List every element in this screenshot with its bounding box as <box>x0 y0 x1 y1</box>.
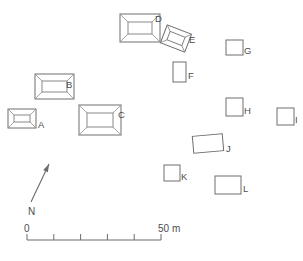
structure-h-outline <box>226 98 243 116</box>
structure-j[interactable] <box>192 134 223 154</box>
scale-bar <box>27 234 161 240</box>
structure-d-slope <box>120 34 128 42</box>
scale-bar-min-label: 0 <box>24 223 30 234</box>
structure-d[interactable] <box>120 14 160 42</box>
structure-a[interactable] <box>8 109 36 128</box>
structure-a-summit <box>14 115 30 122</box>
scale-bar-max-label: 50 m <box>158 223 180 234</box>
structure-b-slope <box>67 92 74 99</box>
structure-c-slope <box>79 105 87 113</box>
structure-label-h: H <box>244 105 251 116</box>
structure-e[interactable] <box>160 25 191 52</box>
structure-k-outline <box>164 165 180 181</box>
structure-e-outline <box>160 25 191 52</box>
structure-label-c: C <box>118 109 125 120</box>
structure-label-b: B <box>66 79 72 90</box>
structure-d-summit <box>128 22 152 34</box>
structure-a-slope <box>8 122 14 128</box>
structure-g-outline <box>226 40 243 55</box>
north-arrow-label: N <box>28 206 35 217</box>
site-plan-figure: ABCDEFGHIJKLN050 m <box>0 0 303 261</box>
structure-f[interactable] <box>173 62 186 82</box>
structure-label-e: E <box>189 34 195 45</box>
structure-b-slope <box>35 74 42 81</box>
north-arrow <box>31 164 49 202</box>
structure-a-outline <box>8 109 36 128</box>
structure-f-outline <box>173 62 186 82</box>
structure-c-summit <box>87 113 113 127</box>
structure-i-outline <box>277 108 294 125</box>
structure-label-f: F <box>188 70 194 81</box>
site-plan-canvas: ABCDEFGHIJKLN050 m <box>0 0 303 261</box>
structure-d-slope <box>152 34 160 42</box>
north-arrow-head <box>43 164 49 172</box>
structure-label-a: A <box>38 119 45 130</box>
structure-c-outline <box>79 105 121 135</box>
structure-d-outline <box>120 14 160 42</box>
structure-label-k: K <box>181 171 188 182</box>
structure-a-slope <box>8 109 14 115</box>
structure-a-slope <box>30 122 36 128</box>
structure-i[interactable] <box>277 108 294 125</box>
structure-g[interactable] <box>226 40 243 55</box>
structure-label-d: D <box>155 13 162 24</box>
structure-l-outline <box>215 176 241 194</box>
structure-b-summit <box>42 81 67 92</box>
structure-c[interactable] <box>79 105 121 135</box>
structure-l[interactable] <box>215 176 241 194</box>
structure-label-j: J <box>226 143 231 154</box>
structure-d-slope <box>120 14 128 22</box>
structure-b-slope <box>35 92 42 99</box>
structure-label-g: G <box>244 45 251 56</box>
structure-label-i: I <box>295 114 298 125</box>
structure-a-slope <box>30 109 36 115</box>
structure-h[interactable] <box>226 98 243 116</box>
structure-k[interactable] <box>164 165 180 181</box>
structure-c-slope <box>79 127 87 135</box>
structure-e-summit <box>167 31 185 45</box>
structure-label-l: L <box>243 183 248 194</box>
structure-j-outline <box>192 134 223 154</box>
structure-c-slope <box>113 127 121 135</box>
